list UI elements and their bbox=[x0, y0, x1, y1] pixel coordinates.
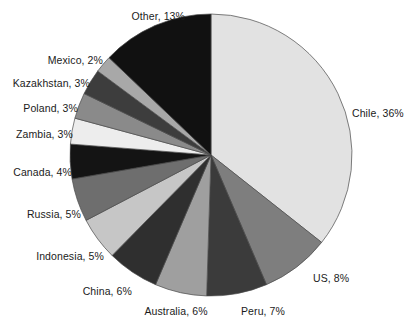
pie-label-chile: Chile, 36% bbox=[352, 107, 404, 119]
pie-label-australia: Australia, 6% bbox=[144, 305, 207, 317]
pie-label-us: US, 8% bbox=[313, 272, 349, 284]
pie-label-poland: Poland, 3% bbox=[23, 102, 78, 114]
pie-chart-figure: Chile, 36%US, 8%Peru, 7%Australia, 6%Chi… bbox=[0, 0, 410, 327]
pie-label-china: China, 6% bbox=[83, 285, 132, 297]
pie-label-peru: Peru, 7% bbox=[241, 305, 285, 317]
pie-label-canada: Canada, 4% bbox=[13, 166, 72, 178]
pie-label-other: Other, 13% bbox=[131, 10, 185, 22]
pie-label-indonesia: Indonesia, 5% bbox=[36, 250, 104, 262]
pie-slice-group bbox=[70, 14, 352, 296]
pie-label-kazakhstan: Kazakhstan, 3% bbox=[13, 77, 90, 89]
pie-label-zambia: Zambia, 3% bbox=[16, 128, 73, 140]
pie-label-russia: Russia, 5% bbox=[27, 208, 81, 220]
pie-label-mexico: Mexico, 2% bbox=[48, 54, 103, 66]
